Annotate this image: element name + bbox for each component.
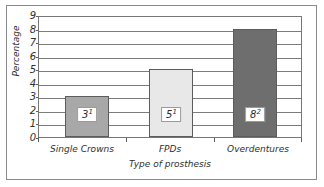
bar-value-superscript: 2 (256, 108, 260, 116)
bar-single-crowns: 31 (65, 96, 109, 137)
x-tick-mark-0 (38, 138, 39, 142)
x-axis-label: Type of prosthesis (38, 159, 302, 169)
bar-fpds: 51 (149, 69, 193, 137)
bar-value-fpds: 51 (161, 107, 181, 122)
x-tick-label-fpds: FPDs (126, 144, 214, 154)
y-axis-tick-labels: 9 8 7 6 5 4 3 2 1 0 (20, 16, 36, 138)
y-tick-2: 2 (22, 106, 36, 116)
bar-value-superscript: 1 (172, 108, 176, 116)
bar-value-single-crowns: 31 (77, 107, 97, 122)
y-tick-1: 1 (22, 119, 36, 129)
y-tick-5: 5 (22, 65, 36, 75)
plot-area: 31 51 82 (38, 16, 302, 138)
x-tick-mark-2 (214, 138, 215, 142)
bar-value-superscript: 1 (88, 108, 92, 116)
y-tick-6: 6 (22, 52, 36, 62)
x-tick-label-single-crowns: Single Crowns (38, 144, 126, 154)
x-tick-mark-1 (126, 138, 127, 142)
y-tick-4: 4 (22, 79, 36, 89)
y-axis-label: Percentage (11, 3, 21, 99)
chart-figure: 9 8 7 6 5 4 3 2 1 0 Percentage 31 (0, 0, 324, 187)
y-tick-3: 3 (22, 92, 36, 102)
bar-value-overdentures: 82 (245, 107, 265, 122)
x-tick-label-overdentures: Overdentures (214, 144, 302, 154)
y-tick-0: 0 (22, 133, 36, 143)
y-tick-9: 9 (22, 11, 36, 21)
x-tick-mark-3 (301, 138, 302, 142)
y-tick-8: 8 (22, 25, 36, 35)
bar-overdentures: 82 (233, 29, 277, 137)
y-tick-7: 7 (22, 38, 36, 48)
